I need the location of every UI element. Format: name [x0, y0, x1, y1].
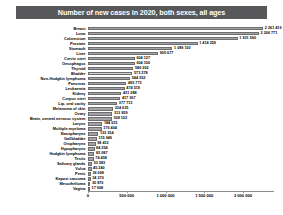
- category-label: Hodgkin lymphoma: [0, 152, 88, 156]
- x-axis-tick-label: 2 000 000: [234, 194, 252, 198]
- bar-value-label: 495 773: [128, 82, 142, 86]
- page-title: Number of new cases in 2020, both sexes,…: [58, 9, 225, 16]
- category-label: Lung: [0, 32, 88, 36]
- bar-value-label: 1 931 590: [239, 37, 256, 41]
- category-label: Multiple myeloma: [0, 127, 88, 131]
- category-label: Cervix uteri: [0, 57, 88, 61]
- bar-value-label: 1 414 259: [199, 42, 216, 46]
- category-label: Larynx: [0, 122, 88, 126]
- category-label: Lip, oral cavity: [0, 102, 88, 106]
- bar[interactable]: [88, 162, 92, 166]
- bar[interactable]: [88, 182, 90, 186]
- x-axis-tick-label: 1 000 000: [156, 194, 174, 198]
- category-label: Ovary: [0, 112, 88, 116]
- bar-chart-plot-area: Breast2 261 419Lung2 206 771Colorectum1 …: [0, 26, 283, 191]
- bar[interactable]: [88, 132, 98, 136]
- bar[interactable]: [88, 112, 112, 116]
- bar-value-label: 604 127: [136, 57, 150, 61]
- category-label: Corpus uteri: [0, 97, 88, 101]
- bar[interactable]: [88, 97, 120, 101]
- bar[interactable]: [88, 87, 125, 91]
- x-axis-tick-label: 1 500 000: [195, 194, 213, 198]
- category-label: Testis: [0, 157, 88, 161]
- category-label: Leukaemia: [0, 87, 88, 91]
- bar-value-label: 905 677: [160, 52, 174, 56]
- bar[interactable]: [88, 152, 94, 156]
- chart-container: Number of new cases in 2020, both sexes,…: [0, 0, 283, 215]
- bar[interactable]: [88, 37, 238, 41]
- bar[interactable]: [88, 172, 91, 176]
- bar-value-label: 604 100: [136, 62, 150, 66]
- bar[interactable]: [88, 52, 158, 56]
- bar[interactable]: [88, 57, 135, 61]
- bar-value-label: 586 202: [135, 67, 149, 71]
- category-label: Breast: [0, 27, 88, 31]
- bar-value-label: 474 519: [126, 87, 140, 91]
- bar[interactable]: [88, 177, 91, 181]
- bar[interactable]: [88, 42, 198, 46]
- bar[interactable]: [88, 122, 102, 126]
- bar[interactable]: [88, 82, 126, 86]
- category-label: Nasopharynx: [0, 132, 88, 136]
- bar[interactable]: [88, 77, 130, 81]
- bar[interactable]: [88, 147, 95, 151]
- category-label: Prostate: [0, 42, 88, 46]
- category-label: Non-Hodgkin lymphoma: [0, 77, 88, 81]
- category-label: Colorectum: [0, 37, 88, 41]
- bar-value-label: 573 278: [134, 72, 148, 76]
- category-label: Liver: [0, 52, 88, 56]
- category-label: Melanoma of skin: [0, 107, 88, 111]
- category-label: Brain, central nervous system: [0, 117, 88, 121]
- bar[interactable]: [88, 27, 263, 31]
- category-label: Kaposi sarcoma: [0, 177, 88, 181]
- x-axis-tick-label: 0: [87, 194, 89, 198]
- bar[interactable]: [88, 92, 121, 96]
- category-label: Vulva: [0, 167, 88, 171]
- category-label: Oropharynx: [0, 142, 88, 146]
- bar-value-label: 544 352: [132, 77, 146, 81]
- x-axis-line: [88, 191, 274, 192]
- bar[interactable]: [88, 32, 259, 36]
- bar-value-label: 2 261 419: [265, 27, 282, 31]
- category-label: Hypopharynx: [0, 147, 88, 151]
- bar-value-label: 1 089 103: [174, 47, 191, 51]
- bar[interactable]: [88, 107, 113, 111]
- bar[interactable]: [88, 72, 132, 76]
- category-label: Bladder: [0, 72, 88, 76]
- category-label: Mesothelioma: [0, 182, 88, 186]
- category-label: Salivary glands: [0, 162, 88, 166]
- bar[interactable]: [88, 67, 133, 71]
- category-label: Pancreas: [0, 82, 88, 86]
- bar-value-label: 2 206 771: [261, 32, 278, 36]
- bar[interactable]: [88, 102, 117, 106]
- category-label: Stomach: [0, 47, 88, 51]
- bar[interactable]: [88, 142, 96, 146]
- category-label: Thyroid: [0, 67, 88, 71]
- bar[interactable]: [88, 167, 92, 171]
- bar[interactable]: [88, 137, 97, 141]
- category-label: Penis: [0, 172, 88, 176]
- bar[interactable]: [88, 47, 172, 51]
- x-axis-tick-label: 500 000: [119, 194, 134, 198]
- bar[interactable]: [88, 117, 112, 121]
- category-label: Kidney: [0, 92, 88, 96]
- bar[interactable]: [88, 62, 135, 66]
- bar[interactable]: [88, 157, 94, 161]
- x-axis: 0500 0001 000 0001 500 0002 000 000: [0, 191, 283, 209]
- chart-title-banner: Number of new cases in 2020, both sexes,…: [16, 6, 267, 19]
- category-label: Oesophagus: [0, 62, 88, 66]
- category-label: Gallbladder: [0, 137, 88, 141]
